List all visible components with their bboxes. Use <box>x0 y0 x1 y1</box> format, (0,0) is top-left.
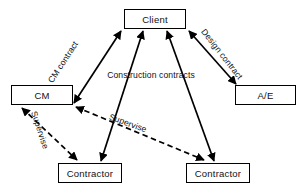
node-cm-label: CM <box>34 90 49 101</box>
diagram-canvas: Client CM A/E Contractor Contractor CM c… <box>0 0 304 193</box>
edge-supervise-2 <box>76 107 204 160</box>
node-client-label: Client <box>142 14 168 25</box>
node-ae[interactable]: A/E <box>235 85 296 105</box>
node-contractor-1-label: Contractor <box>67 168 113 179</box>
edge-label-construction-contracts: Construction contracts <box>107 70 195 80</box>
node-contractor-1[interactable]: Contractor <box>58 163 122 183</box>
node-cm[interactable]: CM <box>11 85 73 105</box>
edge-cm-contract <box>74 31 121 103</box>
node-ae-label: A/E <box>258 90 274 101</box>
node-contractor-2-label: Contractor <box>195 168 241 179</box>
node-client[interactable]: Client <box>124 9 186 29</box>
node-contractor-2[interactable]: Contractor <box>186 163 250 183</box>
